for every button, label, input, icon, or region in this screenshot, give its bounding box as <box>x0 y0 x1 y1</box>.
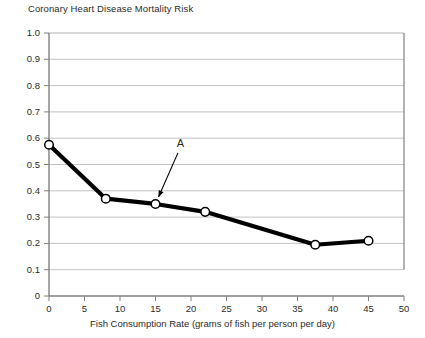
series-polyline <box>49 145 369 245</box>
x-axis-title: Fish Consumption Rate (grams of fish per… <box>0 318 425 329</box>
annotation-a: A <box>159 137 185 197</box>
plot-surface: A <box>0 0 425 338</box>
data-point-marker <box>45 140 54 149</box>
data-markers <box>45 140 373 249</box>
data-line <box>49 145 369 245</box>
data-point-marker <box>151 200 160 209</box>
y-axis-ticks <box>44 33 49 296</box>
gridlines <box>49 33 404 270</box>
data-point-marker <box>311 240 320 249</box>
chart-container: Coronary Heart Disease Mortality Risk 00… <box>0 0 425 338</box>
annotation-label: A <box>177 137 185 149</box>
data-point-marker <box>201 208 210 217</box>
data-point-marker <box>364 236 373 245</box>
x-axis-ticks <box>49 296 404 301</box>
data-point-marker <box>102 194 111 203</box>
